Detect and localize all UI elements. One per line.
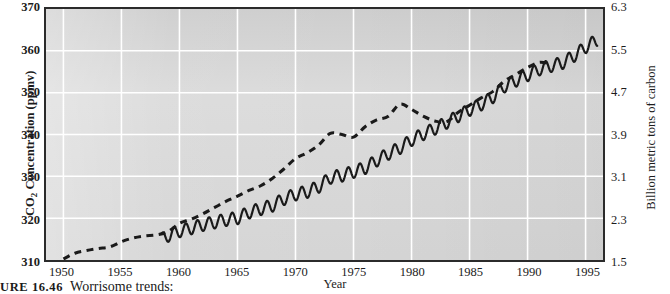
y-axis-right-tick-label: 6.3 bbox=[611, 1, 627, 14]
figure-root: 310320330340350360370 1.52.33.13.94.75.5… bbox=[0, 0, 670, 294]
figure-caption: URE 16.46Worrisome trends: bbox=[0, 279, 420, 294]
y-axis-right-tick-label: 2.3 bbox=[611, 213, 627, 226]
y-axis-right-tick-label: 3.9 bbox=[611, 128, 627, 141]
y-axis-right-tick-label: 3.1 bbox=[611, 171, 627, 184]
y-axis-right-tick-label: 4.7 bbox=[611, 86, 627, 99]
figure-caption-number: URE 16.46 bbox=[0, 280, 63, 294]
plot-area bbox=[44, 7, 605, 262]
y-axis-left-tick-label: 310 bbox=[21, 256, 40, 269]
y-axis-left-tick-label: 360 bbox=[21, 43, 40, 56]
y-axis-right-tick-label: 1.5 bbox=[611, 256, 627, 269]
data-series-layer bbox=[46, 9, 603, 260]
y-axis-right-tick-label: 5.5 bbox=[611, 43, 627, 56]
y-axis-right-title: Billion metric tons of carbon bbox=[644, 43, 659, 233]
y-axis-left-title: CO2 Concentration (ppmv) bbox=[23, 58, 40, 228]
y-axis-left-tick-label: 370 bbox=[21, 1, 40, 14]
figure-caption-text: Worrisome trends: bbox=[70, 279, 173, 294]
